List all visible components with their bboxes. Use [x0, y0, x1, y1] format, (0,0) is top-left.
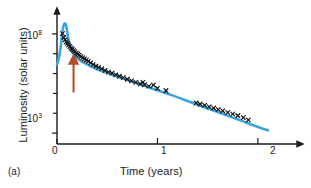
y-axis-ticks: [52, 34, 57, 133]
panel-label: (a): [8, 166, 20, 177]
figure-panel: Luminosity (solar units) Time (years) 10…: [0, 0, 311, 188]
axes-group: [57, 14, 297, 144]
data-point-marker: [246, 118, 250, 122]
data-point-marker: [241, 116, 245, 120]
data-point-marker: [236, 114, 240, 118]
y-tick-label-10e8: 108: [27, 30, 42, 41]
data-point-marker: [152, 83, 156, 87]
x-tick-label-2: 2: [270, 145, 276, 156]
data-point-marker: [231, 112, 235, 116]
x-axis-label: Time (years): [120, 165, 183, 177]
data-point-marker: [221, 109, 225, 113]
data-point-marker: [226, 111, 230, 115]
y-tick-label-10e3: 103: [27, 113, 42, 124]
x-tick-label-0: 0: [52, 145, 58, 156]
x-tick-label-1: 1: [161, 145, 167, 156]
data-point-marker: [216, 108, 220, 112]
plot-canvas: [0, 0, 311, 188]
x-axis-ticks: [57, 138, 258, 144]
observed-data-points: [61, 32, 251, 122]
